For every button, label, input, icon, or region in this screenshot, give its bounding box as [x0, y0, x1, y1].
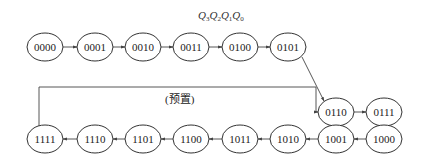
state-node-1010: 1010	[270, 125, 306, 153]
svg-text:1011: 1011	[229, 133, 251, 145]
svg-text:0101: 0101	[277, 41, 299, 53]
state-node-1001: 1001	[318, 125, 354, 153]
svg-text:1100: 1100	[180, 133, 202, 145]
state-node-1101: 1101	[125, 125, 161, 153]
state-node-1100: 1100	[173, 125, 209, 153]
svg-text:0111: 0111	[373, 106, 394, 118]
state-node-0110: 0110	[318, 98, 354, 126]
state-node-1111: 1111	[27, 125, 63, 153]
svg-text:0000: 0000	[34, 41, 57, 53]
state-node-0011: 0011	[173, 33, 209, 61]
state-node-1011: 1011	[222, 125, 258, 153]
svg-text:1101: 1101	[132, 133, 154, 145]
state-node-0010: 0010	[125, 33, 161, 61]
state-diagram: Q3Q2Q1Q0 0000 0001 0010 0011 0100 0101 0…	[0, 0, 422, 168]
svg-text:0001: 0001	[84, 41, 106, 53]
state-node-0001: 0001	[77, 33, 113, 61]
svg-text:1000: 1000	[373, 133, 396, 145]
state-node-1000: 1000	[366, 125, 402, 153]
svg-text:1001: 1001	[325, 133, 347, 145]
state-variable-label: Q3Q2Q1Q0	[198, 9, 244, 23]
state-node-0111: 0111	[366, 98, 402, 126]
svg-text:1010: 1010	[277, 133, 300, 145]
svg-text:0011: 0011	[180, 41, 202, 53]
svg-text:0110: 0110	[325, 106, 347, 118]
svg-text:1111: 1111	[35, 133, 56, 145]
svg-text:0010: 0010	[132, 41, 155, 53]
state-node-0101: 0101	[270, 33, 306, 61]
state-node-0000: 0000	[27, 33, 63, 61]
state-node-0100: 0100	[222, 33, 258, 61]
svg-text:1110: 1110	[84, 133, 106, 145]
edge-0101-0110	[302, 57, 324, 101]
preset-label: (预置)	[165, 93, 195, 106]
svg-text:0100: 0100	[229, 41, 252, 53]
state-node-1110: 1110	[77, 125, 113, 153]
